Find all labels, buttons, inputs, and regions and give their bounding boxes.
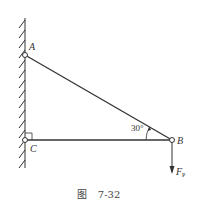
pin-a bbox=[23, 53, 28, 58]
label-b: B bbox=[177, 136, 183, 146]
caption-number: 7-32 bbox=[98, 189, 120, 200]
truss-diagram bbox=[0, 0, 197, 209]
label-c: C bbox=[30, 144, 37, 154]
member-ab bbox=[25, 55, 172, 140]
label-a: A bbox=[29, 42, 35, 52]
wall-hatching bbox=[19, 18, 25, 168]
caption-prefix: 图 bbox=[77, 189, 87, 200]
force-label: FP bbox=[176, 167, 185, 178]
pin-b bbox=[170, 138, 175, 143]
figure-caption: 图 7-32 bbox=[0, 186, 197, 201]
force-arrowhead bbox=[170, 166, 175, 174]
pin-c bbox=[23, 138, 28, 143]
angle-label: 30° bbox=[131, 124, 144, 133]
force-label-sub: P bbox=[182, 172, 185, 178]
